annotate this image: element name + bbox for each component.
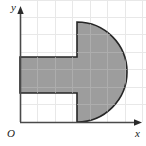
y-axis-arrow-icon — [17, 6, 23, 14]
x-axis-label: x — [135, 128, 140, 139]
x-axis-arrow-icon — [134, 119, 142, 125]
origin-label: O — [7, 128, 15, 139]
shaded-region — [20, 22, 127, 122]
geometry-figure: y x O — [0, 0, 146, 146]
y-axis-label: y — [11, 2, 16, 13]
figure-canvas — [0, 0, 146, 146]
